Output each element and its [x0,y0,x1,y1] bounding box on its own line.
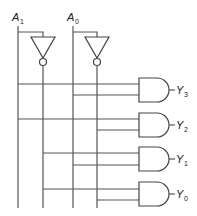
and-gate-y0 [139,182,175,206]
svg-text:Y: Y [176,188,184,200]
and-gate-y3 [139,78,175,102]
output-label-y0: Y 0 [176,188,188,202]
and-gate-y2 [139,113,175,137]
svg-text:Y: Y [176,153,184,165]
output-label-y1: Y 1 [176,153,188,167]
svg-text:1: 1 [184,160,188,167]
input-label-a0: A 0 [66,11,79,25]
svg-text:Y: Y [176,119,184,131]
decoder-diagram: A 1 A 0 [0,0,197,216]
svg-text:2: 2 [184,126,188,133]
gate-input-wires [18,84,139,200]
inverter-a0 [73,32,109,66]
output-label-y3: Y 3 [176,84,188,98]
svg-text:A: A [66,11,74,23]
svg-text:A: A [11,11,19,23]
svg-text:0: 0 [75,18,79,25]
and-gate-y1 [139,147,175,171]
svg-text:0: 0 [184,195,188,202]
svg-text:1: 1 [20,18,24,25]
output-label-y2: Y 2 [176,119,188,133]
inverter-a1 [18,32,55,66]
svg-text:3: 3 [184,91,188,98]
input-label-a1: A 1 [11,11,24,25]
svg-text:Y: Y [176,84,184,96]
